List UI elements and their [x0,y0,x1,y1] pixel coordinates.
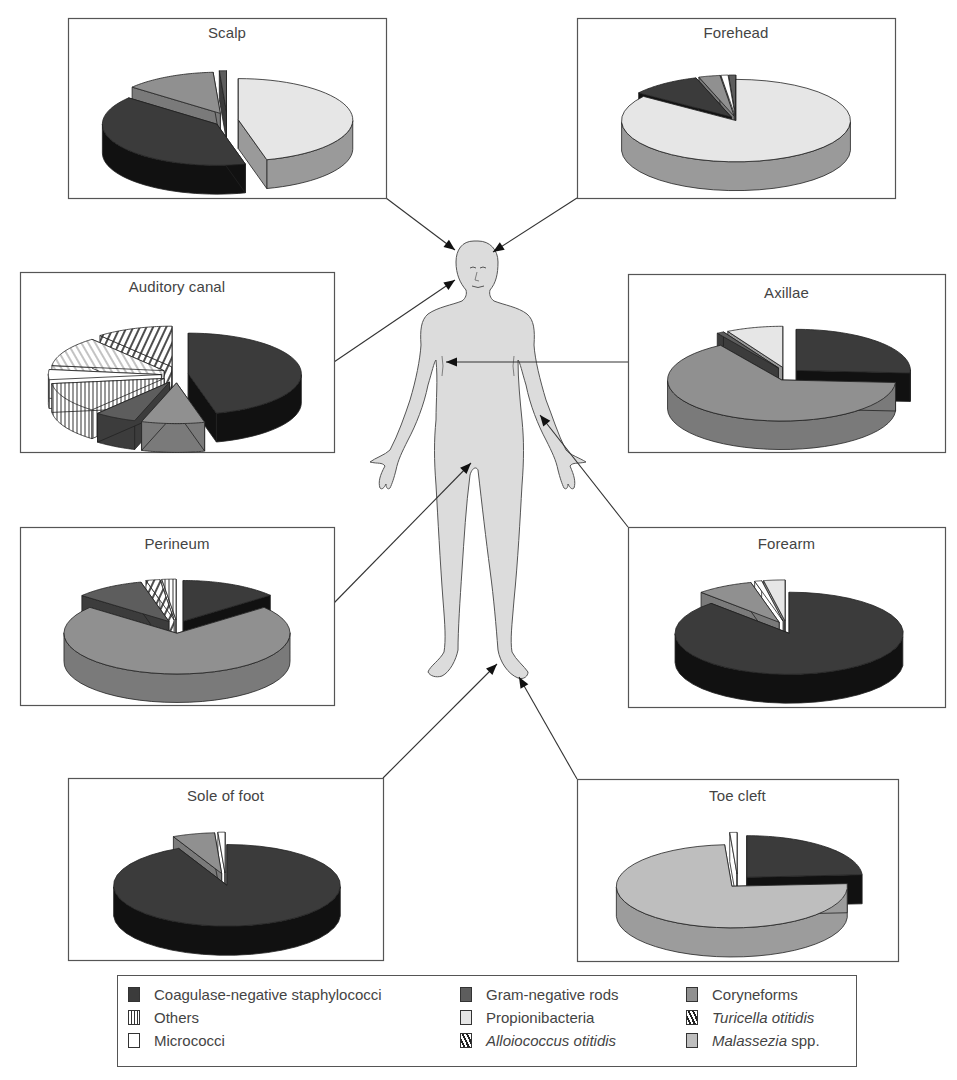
legend-swatch-gram-negative-rods [460,987,472,1002]
legend-item-propionibacteria: Propionibacteria [460,1009,594,1026]
legend-swatch-malassezia [686,1033,698,1048]
legend-item-turicella: Turicella otitidis [686,1009,814,1026]
pie-slice-cons [114,845,341,956]
arrowhead-icon [444,240,455,250]
legend-item-malassezia: Malassezia spp. [686,1032,820,1049]
legend-swatch-alloiococcus [460,1033,472,1048]
connector-line [519,677,577,779]
legend: Coagulase-negative staphylococci Others … [117,975,857,1067]
pie-panel-forehead [578,19,896,199]
pie-panel-auditory-canal [21,273,335,453]
legend-item-others: Others [128,1009,199,1026]
connector-line [540,415,628,527]
arrowhead-icon [443,280,455,290]
legend-swatch-micrococci [128,1033,140,1048]
legend-item-coryneforms: Coryneforms [686,986,798,1003]
pie-panel-scalp [69,19,387,199]
pie-panel-sole-of-foot [69,779,384,961]
human-body-figure [370,241,586,679]
legend-item-cons: Coagulase-negative staphylococci [128,986,382,1003]
legend-swatch-coryneforms [686,987,698,1002]
connector-line [386,198,455,250]
arrowhead-icon [519,677,528,689]
connector-line [383,664,497,778]
pie-slice-cons [675,592,903,703]
legend-item-gram-negative-rods: Gram-negative rods [460,986,619,1003]
arrowhead-icon [493,242,505,252]
legend-item-alloiococcus: Alloiococcus otitidis [460,1032,616,1049]
pie-panel-forearm [629,528,946,708]
legend-swatch-propionibacteria [460,1010,472,1025]
legend-swatch-others [128,1010,140,1025]
legend-swatch-turicella [686,1010,698,1025]
legend-swatch-cons [128,987,140,1002]
pie-panel-axillae [629,275,946,453]
pie-panel-perineum [21,528,335,706]
legend-item-micrococci: Micrococci [128,1032,225,1049]
pie-panel-toe-cleft [578,780,899,962]
connector-line [493,198,577,252]
